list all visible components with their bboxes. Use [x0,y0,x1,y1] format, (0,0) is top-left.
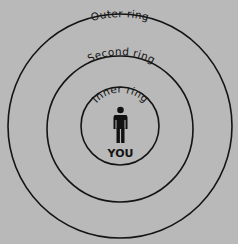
outer-ring-label-text: Outer ring [90,7,151,23]
inner-ring-label: Inner ring [89,83,151,105]
second-ring-label: Second ring [85,45,157,66]
inner-ring-label-text: Inner ring [89,83,151,105]
person-right-leg [121,128,124,143]
second-ring-label-text: Second ring [85,45,157,66]
person-head [117,107,124,114]
diagram-canvas: Outer ring Second ring Inner ring [0,0,238,244]
outer-ring-label: Outer ring [90,7,151,23]
person-body [114,115,128,129]
concentric-rings-diagram: Outer ring Second ring Inner ring [0,0,238,244]
you-label: YOU [107,147,134,160]
person-left-leg [117,128,120,143]
person-icon [114,107,128,143]
